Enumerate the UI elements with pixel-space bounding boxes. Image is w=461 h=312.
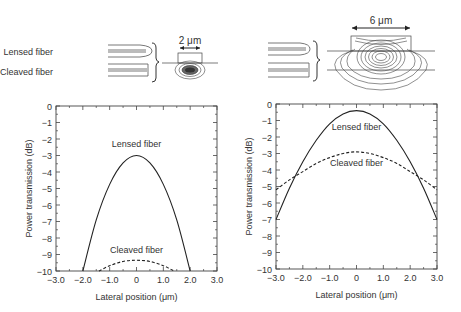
y-tick-label: −5 xyxy=(42,184,52,194)
chart-left: −3.0−2.0−1.001.02.03.00−1−2−3−4−5−6−7−8−… xyxy=(24,102,223,303)
y-tick-label: −4 xyxy=(42,168,52,178)
y-tick-label: −4 xyxy=(262,166,272,176)
x-tick-label: −2.0 xyxy=(294,273,312,283)
x-tick-label: −1.0 xyxy=(101,275,119,285)
left-fiber-diagram: Lensed fiber Cleaved fiber 2 μm xyxy=(0,35,218,82)
x-tick-label: 0 xyxy=(134,275,139,285)
y-tick-label: −8 xyxy=(262,232,272,242)
lensed-fiber-icon xyxy=(108,45,152,57)
brace-icon xyxy=(152,43,159,82)
figure: Lensed fiber Cleaved fiber 2 μm xyxy=(0,0,461,312)
y-tick-label: −9 xyxy=(42,250,52,260)
x-tick-label: 3.0 xyxy=(431,273,444,283)
cleaved-fiber-icon-right xyxy=(268,63,309,77)
right-fiber-diagram: 6 μm xyxy=(268,15,435,90)
y-tick-label: −2 xyxy=(42,135,52,145)
y-tick-label: 0 xyxy=(267,100,272,110)
y-tick-label: −6 xyxy=(42,201,52,211)
x-axis-label: Lateral position (μm) xyxy=(315,290,397,300)
x-tick-label: 2.0 xyxy=(404,273,417,283)
annotation-lensed-fiber: Lensed fiber xyxy=(112,139,162,149)
annotation-cleaved-fiber: Cleaved fiber xyxy=(110,245,163,255)
y-tick-label: −10 xyxy=(37,267,52,277)
waveguide-mode-6um xyxy=(327,36,435,90)
x-tick-label: 2.0 xyxy=(184,275,197,285)
cleaved-fiber-label: Cleaved fiber xyxy=(0,67,53,77)
chart-right: −3.0−2.0−1.001.02.03.00−1−2−3−4−5−6−7−8−… xyxy=(244,100,443,301)
y-tick-label: −1 xyxy=(42,118,52,128)
x-tick-label: 1.0 xyxy=(377,273,390,283)
y-tick-label: −9 xyxy=(262,248,272,258)
x-tick-label: 0 xyxy=(354,273,359,283)
x-tick-label: 1.0 xyxy=(157,275,170,285)
x-tick-label: −3.0 xyxy=(267,273,285,283)
y-axis-label: Power transmission (dB) xyxy=(244,137,254,235)
waveguide-mode-2um xyxy=(162,53,218,79)
y-tick-label: −5 xyxy=(262,182,272,192)
y-tick-label: −10 xyxy=(257,265,272,275)
y-tick-label: −7 xyxy=(42,217,52,227)
y-tick-label: −2 xyxy=(262,133,272,143)
x-tick-label: 3.0 xyxy=(211,275,224,285)
lensed-fiber-label: Lensed fiber xyxy=(3,47,53,57)
y-tick-label: −3 xyxy=(42,151,52,161)
y-tick-label: −3 xyxy=(262,149,272,159)
dimension-arrow-6um xyxy=(352,26,410,31)
x-axis-label: Lateral position (μm) xyxy=(95,292,177,302)
y-axis-label: Power transmission (dB) xyxy=(24,139,34,237)
x-tick-label: −3.0 xyxy=(47,275,65,285)
y-tick-label: −1 xyxy=(262,116,272,126)
lensed-fiber-icon-right xyxy=(268,43,310,55)
y-tick-label: −7 xyxy=(262,215,272,225)
dimension-label-2um: 2 μm xyxy=(179,35,201,46)
y-tick-label: 0 xyxy=(47,102,52,112)
annotation-cleaved-fiber: Cleaved fiber xyxy=(330,158,383,168)
cleaved-fiber-icon xyxy=(108,64,148,76)
x-tick-label: −2.0 xyxy=(74,275,92,285)
brace-icon-right xyxy=(313,41,320,81)
y-tick-label: −6 xyxy=(262,199,272,209)
dimension-label-6um: 6 μm xyxy=(370,15,392,26)
annotation-lensed-fiber: Lensed fiber xyxy=(332,122,382,132)
dimension-arrow-2um xyxy=(180,46,200,50)
x-tick-label: −1.0 xyxy=(321,273,339,283)
y-tick-label: −8 xyxy=(42,234,52,244)
